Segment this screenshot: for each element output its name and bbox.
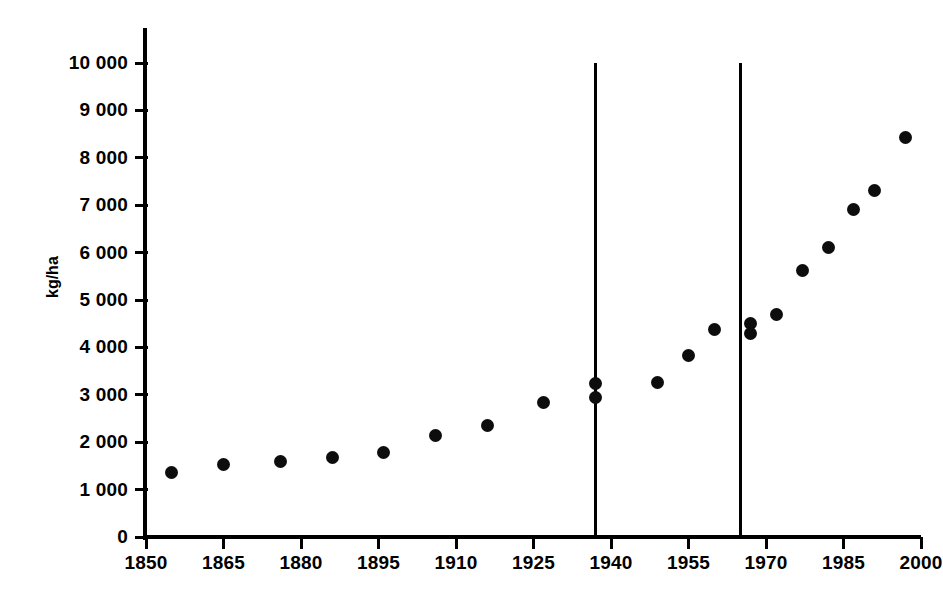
x-axis-tick-mark	[532, 537, 535, 549]
annotation-vline	[594, 63, 597, 537]
x-axis-tick-label: 1895	[357, 552, 400, 574]
y-axis-tick-label: 9 000	[79, 99, 128, 121]
data-point	[165, 466, 178, 479]
x-axis-tick-label: 2000	[899, 552, 942, 574]
data-point	[481, 419, 494, 432]
y-axis-tick-label: 3 000	[79, 384, 128, 406]
data-point	[744, 327, 757, 340]
x-axis-tick-mark	[222, 537, 225, 549]
x-axis-tick-label: 1850	[124, 552, 167, 574]
x-axis-tick-mark	[765, 537, 768, 549]
x-axis-tick-label: 1940	[589, 552, 632, 574]
x-axis-tick-mark	[145, 537, 148, 549]
data-point	[651, 376, 664, 389]
data-point	[847, 203, 860, 216]
y-axis-tick-label: 8 000	[79, 147, 128, 169]
x-axis-tick-label: 1880	[279, 552, 322, 574]
x-axis-tick-mark	[610, 537, 613, 549]
data-point	[217, 458, 230, 471]
x-axis-tick-mark	[920, 537, 923, 549]
x-axis-tick-mark	[300, 537, 303, 549]
data-point	[326, 451, 339, 464]
x-axis-tick-mark	[842, 537, 845, 549]
x-axis-tick-mark	[687, 537, 690, 549]
y-axis-tick-label: 2 000	[79, 431, 128, 453]
x-axis-tick-label: 1910	[434, 552, 477, 574]
x-axis-tick-label: 1985	[822, 552, 865, 574]
data-point	[274, 455, 287, 468]
x-axis-tick-label: 1925	[512, 552, 555, 574]
y-axis-tick-label: 0	[117, 526, 128, 548]
data-point	[589, 391, 602, 404]
y-axis-tick-label: 6 000	[79, 242, 128, 264]
data-point	[682, 349, 695, 362]
data-point	[708, 323, 721, 336]
plot-area	[146, 63, 921, 537]
x-axis-tick-mark	[377, 537, 380, 549]
data-point	[822, 241, 835, 254]
data-point	[796, 264, 809, 277]
data-point	[868, 184, 881, 197]
x-axis-tick-label: 1955	[667, 552, 710, 574]
data-point	[589, 377, 602, 390]
x-axis-tick-mark	[455, 537, 458, 549]
y-axis-tick-label: 1 000	[79, 479, 128, 501]
data-point	[899, 131, 912, 144]
x-axis-tick-label: 1970	[744, 552, 787, 574]
data-point	[429, 429, 442, 442]
x-axis-tick-label: 1865	[202, 552, 245, 574]
data-point	[537, 396, 550, 409]
y-axis-tick-label: 4 000	[79, 336, 128, 358]
y-axis-tick-label: 10 000	[69, 52, 128, 74]
data-point	[377, 446, 390, 459]
y-axis-title: kg/ha	[44, 256, 62, 298]
y-axis-tick-label: 5 000	[79, 289, 128, 311]
data-point	[770, 308, 783, 321]
annotation-vline	[739, 63, 742, 537]
y-axis-tick-label: 7 000	[79, 194, 128, 216]
